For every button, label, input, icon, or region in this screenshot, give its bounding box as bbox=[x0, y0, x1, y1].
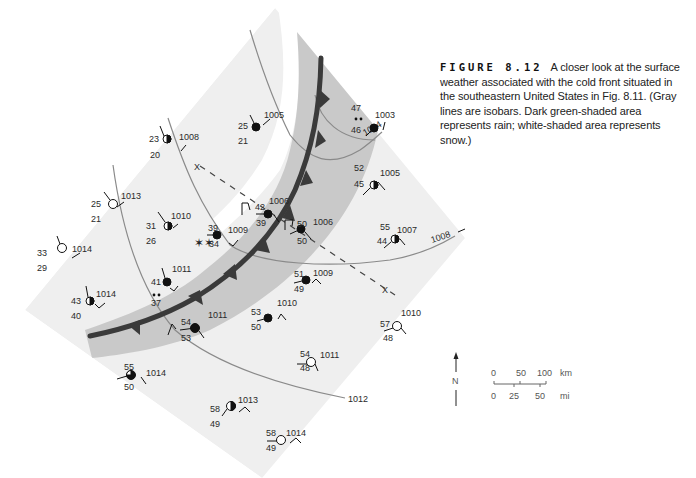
svg-text:km: km bbox=[560, 368, 572, 378]
svg-text:50: 50 bbox=[516, 368, 526, 378]
svg-text:1005: 1005 bbox=[264, 110, 284, 120]
svg-text:47: 47 bbox=[351, 103, 361, 113]
svg-text:40: 40 bbox=[71, 311, 81, 321]
svg-text:1006: 1006 bbox=[313, 217, 333, 227]
svg-text:53: 53 bbox=[251, 307, 261, 317]
svg-text:N: N bbox=[452, 376, 459, 386]
svg-text:42: 42 bbox=[255, 202, 265, 212]
svg-text:1011: 1011 bbox=[320, 350, 339, 360]
svg-text:50: 50 bbox=[124, 382, 134, 392]
svg-text:1009: 1009 bbox=[228, 225, 248, 235]
svg-text:52: 52 bbox=[354, 163, 364, 173]
svg-text:0: 0 bbox=[491, 391, 496, 401]
svg-text:1010: 1010 bbox=[277, 298, 297, 308]
svg-text:55: 55 bbox=[124, 362, 134, 372]
svg-text:45: 45 bbox=[354, 179, 364, 189]
svg-text:44: 44 bbox=[377, 236, 387, 246]
svg-text:58: 58 bbox=[266, 428, 276, 438]
svg-text:1005: 1005 bbox=[380, 168, 400, 178]
svg-text:✶✶: ✶✶ bbox=[194, 236, 214, 250]
svg-text:48: 48 bbox=[383, 333, 393, 343]
svg-text:mi: mi bbox=[560, 391, 570, 401]
svg-text:50: 50 bbox=[535, 391, 545, 401]
scale-bar: 0 50 100 km 0 25 50 mi bbox=[491, 368, 572, 401]
svg-text:1011: 1011 bbox=[172, 264, 191, 274]
svg-text:23: 23 bbox=[149, 134, 159, 144]
figure-caption: FIGURE 8.12A closer look at the surface … bbox=[440, 60, 690, 147]
svg-text:100: 100 bbox=[537, 368, 552, 378]
svg-text:1010: 1010 bbox=[171, 211, 191, 221]
svg-text:31: 31 bbox=[146, 221, 156, 231]
north-arrow: N bbox=[452, 352, 459, 406]
svg-text:21: 21 bbox=[91, 214, 101, 224]
svg-text:1009: 1009 bbox=[313, 268, 333, 278]
svg-text:25: 25 bbox=[238, 121, 248, 131]
svg-text:57: 57 bbox=[380, 319, 390, 329]
svg-text:1011: 1011 bbox=[208, 310, 227, 320]
svg-text:25: 25 bbox=[509, 391, 519, 401]
svg-text:1008: 1008 bbox=[179, 132, 199, 142]
svg-text:48: 48 bbox=[300, 363, 310, 373]
svg-text:20: 20 bbox=[150, 150, 160, 160]
svg-text:1014: 1014 bbox=[96, 289, 116, 299]
svg-text:58: 58 bbox=[210, 404, 220, 414]
svg-text:33: 33 bbox=[37, 248, 47, 258]
svg-text:43: 43 bbox=[71, 296, 81, 306]
svg-text:50: 50 bbox=[297, 236, 307, 246]
svg-text:29: 29 bbox=[37, 263, 47, 273]
svg-text:X: X bbox=[382, 285, 388, 295]
svg-text:1014: 1014 bbox=[146, 368, 166, 378]
svg-text:41: 41 bbox=[151, 277, 161, 287]
svg-text:1014: 1014 bbox=[286, 428, 306, 438]
svg-text:1007: 1007 bbox=[397, 225, 417, 235]
svg-text:1010: 1010 bbox=[401, 308, 421, 318]
svg-text:25: 25 bbox=[91, 199, 101, 209]
svg-text:46: 46 bbox=[351, 125, 361, 135]
svg-text:1013: 1013 bbox=[238, 395, 258, 405]
svg-text:54: 54 bbox=[181, 317, 191, 327]
svg-text:53: 53 bbox=[181, 333, 191, 343]
svg-text:1012: 1012 bbox=[348, 394, 368, 404]
svg-text:39: 39 bbox=[208, 223, 218, 233]
svg-text:37: 37 bbox=[151, 298, 161, 308]
svg-text:49: 49 bbox=[294, 284, 304, 294]
svg-text:39: 39 bbox=[256, 218, 266, 228]
svg-text:50: 50 bbox=[297, 219, 307, 229]
svg-text:51: 51 bbox=[294, 269, 304, 279]
figure-label: FIGURE 8.12 bbox=[440, 61, 543, 73]
svg-text:1014: 1014 bbox=[72, 244, 92, 254]
svg-text:26: 26 bbox=[146, 236, 156, 246]
svg-text:55: 55 bbox=[380, 222, 390, 232]
svg-text:21: 21 bbox=[238, 136, 248, 146]
svg-text:X: X bbox=[194, 162, 200, 172]
svg-text:0: 0 bbox=[491, 368, 496, 378]
svg-text:50: 50 bbox=[251, 322, 261, 332]
svg-text:1003: 1003 bbox=[375, 110, 395, 120]
svg-text:1006: 1006 bbox=[269, 196, 289, 206]
svg-text:54: 54 bbox=[300, 349, 310, 359]
svg-text:1013: 1013 bbox=[121, 191, 141, 201]
caption-text: A closer look at the surface weather ass… bbox=[440, 61, 680, 146]
svg-text:49: 49 bbox=[266, 443, 276, 453]
svg-text:49: 49 bbox=[210, 419, 220, 429]
